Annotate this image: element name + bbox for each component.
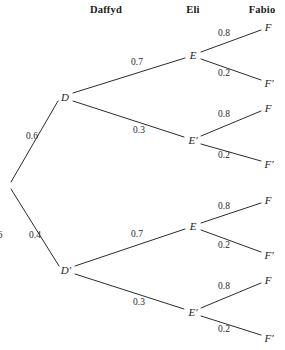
branch-probability-D-to-E1p: 0.3 (133, 125, 145, 135)
branch-probability-E2-to-F3p: 0.2 (218, 240, 230, 250)
branch-probability-E2-to-F3: 0.8 (218, 201, 230, 211)
branch-probability-root-to-Dp: 0.4 (29, 230, 41, 240)
tree-node-F4p: F′ (264, 332, 273, 344)
tree-node-E2p: E′ (188, 306, 197, 318)
tree-branch-root-to-D (11, 101, 58, 182)
tree-node-Dp: D′ (61, 264, 71, 276)
tree-branch-E1-to-F1 (201, 30, 261, 52)
tree-branch-E1-to-F1p (201, 59, 261, 80)
tree-branch-Dp-to-E2p (75, 274, 184, 309)
branch-probability-E1p-to-F2p: 0.2 (218, 150, 230, 160)
tree-branch-E2-to-F3 (201, 203, 261, 223)
tree-node-E1: E (190, 49, 197, 61)
branch-probability-E2p-to-F4p: 0.2 (218, 324, 230, 334)
branch-probability-root-to-D: 0.6 (26, 131, 38, 141)
tree-branch-D-to-E1p (73, 101, 184, 137)
branch-probability-Dp-to-E2: 0.7 (131, 229, 143, 239)
tree-node-F3p: F′ (264, 249, 273, 261)
tree-branch-E2p-to-F4 (201, 283, 261, 308)
page-margin-artifact: 6 (0, 228, 3, 240)
tree-node-E2: E (190, 220, 197, 232)
tree-node-F4: F (265, 274, 272, 286)
tree-branch-E2p-to-F4p (201, 316, 261, 335)
column-header-fabio: Fabio (249, 4, 276, 15)
tree-branch-D-to-E1 (73, 58, 185, 93)
tree-branch-root-to-Dp (11, 189, 59, 266)
branch-probability-Dp-to-E2p: 0.3 (133, 297, 145, 307)
column-header-eli: Eli (186, 4, 199, 15)
tree-node-F2p: F′ (264, 158, 273, 170)
branch-probability-E1-to-F1: 0.8 (218, 28, 230, 38)
tree-node-F3: F (265, 194, 272, 206)
branch-probability-D-to-E1: 0.7 (131, 57, 143, 67)
branch-probability-E1p-to-F2: 0.8 (218, 109, 230, 119)
tree-branch-Dp-to-E2 (75, 229, 185, 266)
tree-branch-E1p-to-F2 (201, 111, 261, 136)
tree-node-F1p: F′ (264, 77, 273, 89)
tree-node-E1p: E′ (188, 134, 197, 146)
tree-node-D: D (61, 91, 69, 103)
column-header-daffyd: Daffyd (90, 4, 122, 15)
branch-probability-E1-to-F1p: 0.2 (218, 68, 230, 78)
tree-branch-E1p-to-F2p (201, 144, 261, 161)
probability-tree-diagram: DaffydEliFabio DD′EE′EE′FF′FF′FF′FF′ 0.6… (0, 0, 285, 350)
tree-node-F1: F (265, 21, 272, 33)
tree-node-F2: F (265, 102, 272, 114)
branch-probability-E2p-to-F4: 0.8 (218, 281, 230, 291)
tree-branch-E2-to-F3p (201, 230, 261, 252)
